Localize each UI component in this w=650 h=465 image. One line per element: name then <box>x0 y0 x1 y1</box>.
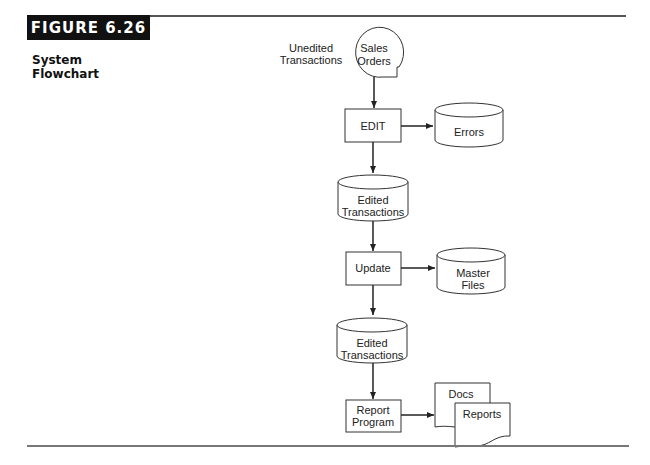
node-edited-transactions-2: Edited Transactions <box>337 318 407 363</box>
input-annotation: Unedited Transactions <box>280 42 343 66</box>
edited2-line1: Edited <box>356 337 387 349</box>
report-program-line2: Program <box>352 416 394 428</box>
flowchart: Unedited Transactions Sales Orders EDIT … <box>0 0 650 465</box>
node-edit: EDIT <box>345 109 401 142</box>
sales-orders-line2: Orders <box>357 55 391 67</box>
reports-label: Reports <box>463 408 502 420</box>
edit-label: EDIT <box>360 120 385 132</box>
bottom-rule <box>27 445 629 447</box>
node-edited-transactions-1: Edited Transactions <box>338 175 408 221</box>
report-program-line1: Report <box>356 404 389 416</box>
edited1-line1: Edited <box>357 194 388 206</box>
node-update: Update <box>346 252 401 285</box>
errors-top <box>435 103 503 117</box>
master-top <box>437 248 505 262</box>
node-reports: Reports <box>455 403 510 447</box>
node-sales-orders: Sales Orders <box>356 27 404 77</box>
annotation-line2: Transactions <box>280 54 343 66</box>
errors-label: Errors <box>454 126 484 138</box>
sales-orders-line1: Sales <box>360 42 388 54</box>
master-line2: Files <box>461 279 485 291</box>
docs-label: Docs <box>448 388 474 400</box>
update-label: Update <box>355 262 390 274</box>
edited2-top <box>337 318 407 332</box>
edited1-top <box>338 175 408 189</box>
node-report-program: Report Program <box>346 400 401 432</box>
edited1-line2: Transactions <box>342 206 405 218</box>
master-line1: Master <box>456 267 490 279</box>
node-errors: Errors <box>435 103 503 147</box>
edited2-line2: Transactions <box>341 349 404 361</box>
annotation-line1: Unedited <box>289 42 333 54</box>
node-master-files: Master Files <box>437 248 505 294</box>
